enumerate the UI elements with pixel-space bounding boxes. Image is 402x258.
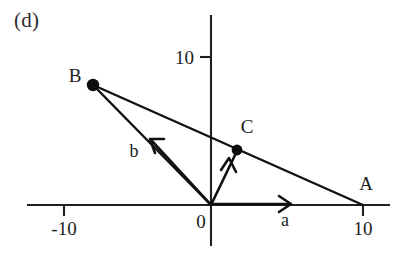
vector-diagram: B C A b a 0 -10 10 10 xyxy=(0,0,402,258)
vector-oc-shaft xyxy=(211,151,237,205)
point-marker-b xyxy=(87,79,99,91)
label-origin: 0 xyxy=(196,211,206,232)
label-y-tick-10: 10 xyxy=(175,47,194,68)
label-vector-a: a xyxy=(281,210,289,230)
point-marker-c xyxy=(232,145,243,156)
label-vector-b: b xyxy=(130,141,139,161)
figure-root: (d) B C A b a 0 -10 10 10 xyxy=(0,0,402,258)
label-point-c: C xyxy=(241,116,254,137)
label-x-tick-neg10: -10 xyxy=(51,218,76,239)
vector-b-shaft xyxy=(152,141,211,205)
label-x-tick-pos10: 10 xyxy=(354,218,373,239)
label-point-a: A xyxy=(359,173,373,194)
label-point-b: B xyxy=(69,65,82,86)
